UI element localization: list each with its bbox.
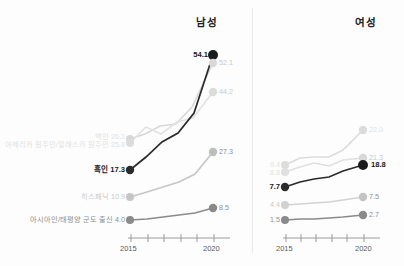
point-asian-male-end: [209, 204, 217, 212]
point-native-male-end: [209, 88, 217, 96]
label-asian-female-start: 1.5: [250, 216, 280, 223]
line-black-male: [130, 55, 213, 170]
point-hispanic-male-start: [126, 193, 134, 201]
label-asian-male-start: 아시아인/태평양 군도 출신 4.0: [0, 216, 125, 223]
point-black-male-end: [208, 50, 218, 60]
point-asian-male-start: [126, 216, 134, 224]
point-native-male-start: [126, 139, 134, 147]
point-black-female-start: [281, 183, 289, 191]
point-hispanic-male-end: [209, 148, 217, 156]
line-hispanic-female: [285, 197, 363, 205]
point-black-female-end: [358, 160, 368, 170]
point-native-female-start: [281, 161, 289, 169]
line-hispanic-male: [130, 152, 213, 197]
label-black-female-end: 18.8: [371, 161, 386, 169]
line-asian-female: [285, 215, 363, 220]
male-axis-label-start: 2015: [120, 244, 137, 253]
label-native-male-end: 44.2: [219, 88, 233, 95]
point-asian-female-start: [281, 216, 289, 224]
label-hispanic-male-start: 히스패닉 10.9: [0, 193, 125, 200]
label-asian-female-end: 2.7: [369, 211, 379, 218]
male-axis-label-end: 2020: [203, 244, 220, 253]
label-white-male-end: 52.1: [219, 59, 233, 66]
female-axis-label-start: 2015: [276, 244, 293, 253]
label-hispanic-female-end: 7.5: [369, 193, 379, 200]
point-white-male-end: [209, 59, 217, 67]
point-white-female-start: [281, 168, 289, 176]
line-white-male: [130, 63, 213, 139]
point-native-female-end: [359, 126, 367, 134]
label-asian-male-end: 8.5: [219, 204, 229, 211]
label-black-male-end: 54.1: [175, 51, 208, 59]
point-asian-female-end: [359, 211, 367, 219]
point-black-male-start: [126, 166, 134, 174]
panel-male: 남성: [0, 0, 250, 266]
label-native-male-start: 아메리카 원주민/알래스카 원주민 25.8: [0, 141, 125, 148]
label-hispanic-female-start: 4.4: [250, 201, 280, 208]
panel-female: 여성: [250, 0, 404, 266]
label-black-male-start: 흑인 17.3: [0, 166, 125, 174]
point-hispanic-female-end: [359, 193, 367, 201]
chart-canvas: 남성: [0, 0, 404, 266]
point-hispanic-female-start: [281, 201, 289, 209]
line-asian-male: [130, 208, 213, 220]
label-hispanic-male-end: 27.3: [219, 148, 233, 155]
label-white-female-start: 8.8: [250, 169, 280, 176]
label-native-female-end: 22.0: [369, 126, 383, 133]
label-black-female-start: 7.7: [250, 183, 280, 191]
female-axis-label-end: 2020: [355, 244, 372, 253]
